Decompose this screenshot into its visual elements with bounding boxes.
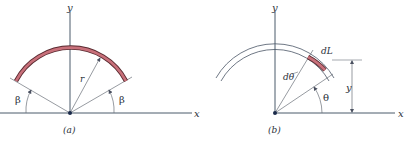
x-label-a: x [194,108,200,119]
x-label-b: x [398,108,404,119]
charged-arc [16,48,126,81]
panel-b: x y dL dθ θ y (b) [216,2,404,135]
figure: x y r β β (a) x y dL [0,0,405,143]
radius-label: r [80,74,85,84]
beta-label-left: β [15,94,21,105]
caption-a: (a) [63,125,76,135]
caption-b: (b) [268,125,281,135]
y-label-a: y [66,2,73,13]
y-label-b: y [271,2,278,13]
dl-label: dL [321,46,333,56]
beta-arc-right [109,90,114,113]
theta-arc [314,87,322,113]
panel-a: x y r β β (a) [0,2,200,135]
origin-dot-b [273,111,277,115]
y-dimension-label: y [345,82,352,93]
radius-line [70,58,100,113]
beta-label-right: β [119,94,125,105]
dtheta-label: dθ [283,72,295,82]
theta-label: θ [323,92,329,103]
beta-arc-left [26,90,31,113]
origin-dot-a [68,111,72,115]
